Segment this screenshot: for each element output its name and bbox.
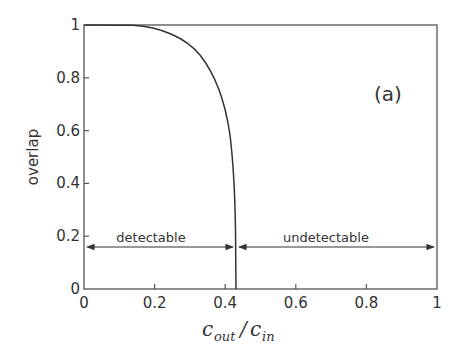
x-tick-label: 0 [79,294,89,312]
y-tick-label: 0.8 [56,69,80,87]
y-tick-labels: 0 0.2 0.4 0.6 0.8 1 [56,16,80,298]
y-tick-label: 0.2 [56,227,80,245]
x-label-c1: c [202,317,213,341]
x-label-c2: c [250,317,261,341]
y-ticks [84,78,89,236]
detectable-label: detectable [116,230,185,245]
x-tick-label: 0.6 [284,294,308,312]
y-tick-label: 0.6 [56,122,80,140]
overlap-curve [84,25,236,289]
y-tick-label: 0.4 [56,174,80,192]
y-axis-label: overlap [24,129,42,185]
undetectable-label: undetectable [283,230,369,245]
x-tick-labels: 0 0.2 0.4 0.6 0.8 1 [79,294,442,312]
x-label-slash: / [238,317,249,341]
x-tick-label: 1 [432,294,442,312]
x-label-sub1: out [214,329,236,344]
y-tick-label: 0 [70,280,80,298]
x-axis-label: c out / c in [202,317,275,344]
x-ticks [155,284,367,289]
chart: 0 0.2 0.4 0.6 0.8 1 0 0.2 0.4 0.6 0.8 1 … [0,0,468,354]
x-tick-label: 0.2 [143,294,167,312]
plot-frame [84,25,437,289]
x-tick-label: 0.4 [213,294,237,312]
y-tick-label: 1 [70,16,80,34]
panel-label: (a) [374,82,402,106]
x-tick-label: 0.8 [354,294,378,312]
x-label-sub2: in [262,329,275,344]
